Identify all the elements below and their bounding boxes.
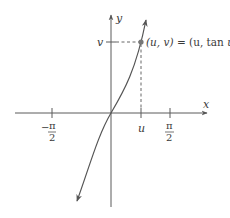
point-u-v (138, 39, 143, 44)
svg-text:π: π (166, 120, 173, 131)
point-label: (u, v) = (u, tan u) (146, 36, 230, 48)
svg-text:2: 2 (166, 132, 172, 143)
y-axis-label: y (115, 12, 123, 25)
neg-half-pi-label: − π 2 (41, 120, 56, 143)
svg-text:2: 2 (49, 132, 55, 143)
pos-half-pi-label: π 2 (165, 120, 174, 143)
v-label: v (97, 36, 104, 49)
tangent-graph-figure: x y v u − π 2 π 2 (u, v) = (u, tan u) (0, 0, 230, 218)
svg-text:π: π (49, 120, 56, 131)
x-axis-label: x (203, 98, 210, 111)
u-label: u (138, 122, 145, 135)
